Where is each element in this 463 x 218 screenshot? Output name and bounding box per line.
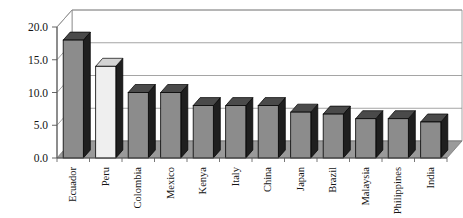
bar-column	[161, 85, 188, 159]
bar-column	[193, 98, 220, 158]
bar-front-face	[161, 93, 181, 159]
bar-side-face	[148, 85, 155, 159]
bar-front-face	[96, 66, 116, 158]
category-label: Japan	[295, 166, 306, 191]
bar-column	[323, 106, 350, 158]
bar-front-face	[193, 106, 213, 158]
bar-column	[63, 32, 90, 158]
bar-front-face	[128, 93, 148, 159]
bar-column	[258, 98, 285, 158]
bar-column	[388, 111, 415, 158]
category-label: Colombia	[132, 167, 143, 209]
x-axis-category-labels: EcuadorPeruColombiaMexicoKenyaItalyChina…	[67, 166, 436, 214]
category-label: Brazil	[327, 167, 338, 193]
category-label: India	[425, 167, 436, 189]
category-label: Ecuador	[67, 166, 78, 201]
bar-column	[128, 85, 155, 159]
bar-front-face	[63, 40, 83, 158]
y-axis-tick-labels: 0.05.010.015.020.0	[28, 21, 48, 164]
bar-side-face	[83, 32, 90, 158]
bar-column	[356, 111, 383, 158]
category-label: Kenya	[197, 167, 208, 195]
bar-front-face	[421, 122, 441, 158]
bar-column	[291, 104, 318, 158]
y-tick-label: 0.0	[34, 152, 49, 164]
bar-side-face	[343, 106, 350, 158]
bar-side-face	[246, 98, 253, 158]
bar-front-face	[258, 106, 278, 158]
bar-column	[421, 114, 448, 158]
y-tick-label: 15.0	[28, 54, 48, 66]
category-label: China	[262, 167, 273, 192]
bar-side-face	[278, 98, 285, 158]
bar-side-face	[181, 85, 188, 159]
category-label: Italy	[230, 166, 241, 186]
bar-side-face	[311, 104, 318, 158]
y-axis	[52, 27, 57, 158]
category-label: Peru	[100, 166, 111, 186]
category-label: Malaysia	[360, 167, 371, 206]
bar-side-face	[213, 98, 220, 158]
bar-side-face	[116, 58, 123, 158]
category-label: Philippines	[392, 167, 403, 214]
category-label: Mexico	[165, 167, 176, 199]
y-tick-label: 20.0	[28, 21, 48, 33]
y-tick-label: 5.0	[34, 119, 49, 131]
bar-front-face	[291, 112, 311, 158]
bar-front-face	[323, 114, 343, 158]
chart-canvas: 0.05.010.015.020.0 EcuadorPeruColombiaMe…	[0, 0, 463, 218]
bar-column	[96, 58, 123, 158]
y-tick-label: 10.0	[28, 87, 48, 99]
bar-front-face	[226, 106, 246, 158]
bar-chart: 0.05.010.015.020.0 EcuadorPeruColombiaMe…	[0, 0, 463, 218]
bar-front-face	[388, 119, 408, 158]
bar-column	[226, 98, 253, 158]
bar-front-face	[356, 119, 376, 158]
